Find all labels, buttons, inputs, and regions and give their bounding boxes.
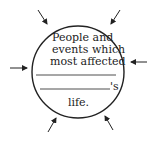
text-last-line: life. — [68, 96, 89, 109]
arrow-bottom-left-icon — [48, 118, 56, 132]
arrow-top-right-icon — [111, 10, 120, 24]
diagram: People and events which most affected 's… — [0, 0, 156, 142]
circle-arrows-graphic — [0, 0, 156, 142]
possessive-suffix: 's — [110, 80, 119, 93]
arrow-top-left-icon — [38, 10, 47, 24]
text-line-3: most affected — [50, 55, 126, 68]
arrow-bottom-right-icon — [105, 116, 113, 130]
